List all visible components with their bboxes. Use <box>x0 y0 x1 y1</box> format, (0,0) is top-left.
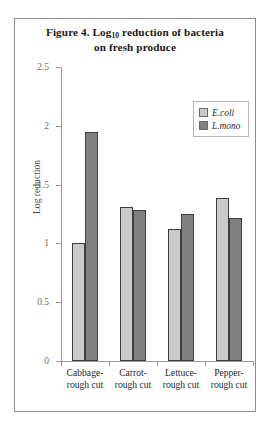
y-tick-label-2.5: 2.5 <box>37 62 49 72</box>
bar-cabbage-lmono <box>85 132 98 361</box>
x-category-label-carrot-line1: Carrot- <box>119 367 147 378</box>
y-tick-1: 1 <box>56 243 61 244</box>
x-tick-2 <box>157 361 158 366</box>
bar-carrot-ecoli <box>120 207 133 361</box>
x-tick-4 <box>253 361 254 366</box>
legend-label-lmono: L.mono <box>212 121 240 131</box>
y-tick-label-1.5: 1.5 <box>37 180 49 190</box>
y-tick-1.5: 1.5 <box>56 185 61 186</box>
legend-label-ecoli: E.coli <box>212 108 234 118</box>
figure-frame: Figure 4. Log10 reduction of bacteria on… <box>14 18 256 412</box>
y-tick-label-2: 2 <box>44 121 49 131</box>
y-tick-label-0: 0 <box>44 356 49 366</box>
legend-item-ecoli: E.coli <box>199 106 243 119</box>
chart-title-subscript: 10 <box>111 31 119 40</box>
bar-lettuce-lmono <box>181 214 194 361</box>
chart-title-line2: on fresh produce <box>94 41 176 53</box>
x-category-label-cabbage-line1: Cabbage- <box>67 367 104 378</box>
x-category-label-carrot: Carrot- rough cut <box>115 367 152 390</box>
bar-pepper-ecoli <box>216 198 229 361</box>
chart-title: Figure 4. Log10 reduction of bacteria on… <box>15 26 255 54</box>
legend-swatch-lmono <box>199 121 208 130</box>
chart-title-text-pre: Figure 4. Log <box>46 26 111 38</box>
chart-title-line1: Figure 4. Log10 reduction of bacteria <box>46 26 224 38</box>
chart-legend: E.coli L.mono <box>193 101 249 137</box>
x-category-label-cabbage: Cabbage- rough cut <box>67 367 104 390</box>
legend-swatch-ecoli <box>199 108 208 117</box>
x-category-label-lettuce-line2: rough cut <box>163 379 200 390</box>
x-category-label-pepper-line2: rough cut <box>211 379 248 390</box>
x-category-label-lettuce-line1: Lettuce- <box>165 367 197 378</box>
y-tick-label-0.5: 0.5 <box>37 297 49 307</box>
y-axis-line <box>61 67 62 361</box>
y-tick-2.5: 2.5 <box>56 67 61 68</box>
x-tick-3 <box>205 361 206 366</box>
y-tick-0.5: 0.5 <box>56 302 61 303</box>
bar-pepper-lmono <box>229 218 242 361</box>
y-tick-2: 2 <box>56 126 61 127</box>
bar-carrot-lmono <box>133 210 146 361</box>
bar-lettuce-ecoli <box>168 229 181 361</box>
x-tick-1 <box>109 361 110 366</box>
x-category-label-carrot-line2: rough cut <box>115 379 152 390</box>
chart-title-text-post: reduction of bacteria <box>119 26 224 38</box>
x-category-label-pepper-line1: Pepper- <box>214 367 244 378</box>
x-category-label-lettuce: Lettuce- rough cut <box>163 367 200 390</box>
legend-item-lmono: L.mono <box>199 119 243 132</box>
x-category-label-pepper: Pepper- rough cut <box>211 367 248 390</box>
x-tick-0 <box>61 361 62 366</box>
y-tick-label-1: 1 <box>44 238 49 248</box>
bar-cabbage-ecoli <box>72 243 85 361</box>
x-category-label-cabbage-line2: rough cut <box>67 379 104 390</box>
